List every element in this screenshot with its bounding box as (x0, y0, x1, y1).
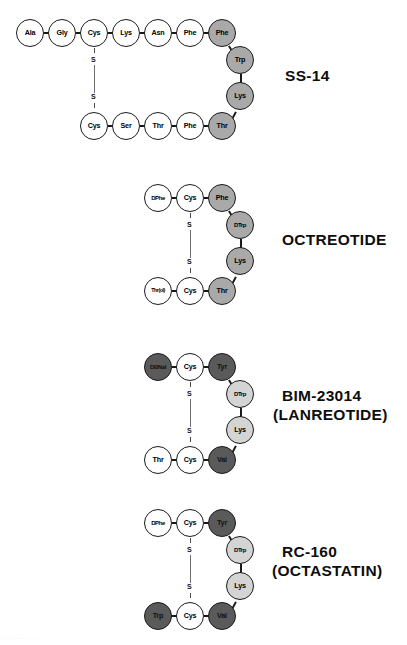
residue-trp: Trp (226, 46, 254, 74)
residue-label: Cys (88, 122, 101, 129)
disulfide-tick (94, 103, 95, 108)
residue-label: DTrp (234, 222, 246, 228)
residue-label: Lys (120, 29, 132, 36)
peptide-structures-figure: Ala Gly Cys Lys Asn Phe Phe Trp Lys Cys … (0, 0, 407, 645)
residue-dtrp: DTrp (226, 536, 254, 564)
residue-lys: Lys (226, 572, 254, 600)
residue-cys-top: Cys (176, 184, 204, 212)
residue-label: Lys (234, 426, 246, 433)
residue-label: DTrp (234, 391, 246, 397)
residue-label: Cys (88, 29, 101, 36)
panel-caption-octreotide: OCTREOTIDE (282, 230, 387, 249)
residue-lys: Lys (226, 247, 254, 275)
residue-label: Ala (25, 29, 36, 36)
residue-cys-bottom: Cys (80, 112, 108, 140)
disulfide-tick (190, 593, 191, 598)
disulfide-sulfur-lower: S (90, 93, 97, 100)
residue-ser: Ser (112, 112, 140, 140)
panel-octreotide: DPhe Cys Phe DTrp Lys Thr(ol) Cys Thr S … (0, 175, 407, 325)
residue-trp: Trp (144, 602, 172, 630)
caption-line1: SS-14 (285, 67, 330, 84)
disulfide-tick (190, 268, 191, 273)
residue-label: Phe (216, 29, 229, 36)
disulfide-sulfur-lower: S (186, 583, 193, 590)
residue-label: Thr(ol) (151, 288, 165, 293)
residue-label: Phe (184, 122, 197, 129)
residue-cys-bottom: Cys (176, 602, 204, 630)
residue-phe-bottom: Phe (176, 112, 204, 140)
residue-label: Asn (152, 29, 165, 36)
residue-label: Phe (216, 194, 229, 201)
panel-caption-rc160: RC-160 (OCTASTATIN) (282, 542, 382, 580)
caption-line1: BIM-23014 (282, 387, 361, 404)
panel-caption-bim23014: BIM-23014 (LANREOTIDE) (282, 386, 388, 424)
caption-line2: (LANREOTIDE) (273, 405, 388, 424)
residue-label: Lys (234, 582, 246, 589)
disulfide-tick (190, 538, 191, 543)
residue-label: Thr (217, 122, 228, 129)
residue-label: Tyr (217, 363, 227, 370)
residue-label: DPhe (151, 195, 165, 201)
disulfide-tick (94, 48, 95, 53)
residue-label: Val (217, 456, 227, 463)
residue-label: Lys (234, 92, 246, 99)
residue-tyr: Tyr (208, 509, 236, 537)
residue-asn: Asn (144, 19, 172, 47)
residue-label: Trp (235, 56, 246, 63)
disulfide-line (190, 399, 191, 427)
panel-bim23014: DBNal Cys Tyr DTrp Lys Thr Cys Val S S B… (0, 337, 407, 489)
residue-label: Ser (121, 122, 132, 129)
residue-lys: Lys (226, 416, 254, 444)
residue-tyr: Tyr (208, 353, 236, 381)
residue-label: DPhe (151, 520, 165, 526)
residue-dtrp: DTrp (226, 380, 254, 408)
residue-label: Lys (234, 257, 246, 264)
disulfide-sulfur-upper: S (186, 546, 193, 553)
disulfide-sulfur-lower: S (186, 427, 193, 434)
caption-line1: RC-160 (282, 543, 337, 560)
disulfide-tick (190, 382, 191, 387)
residue-label: DBNal (150, 364, 166, 370)
residue-dphe: DPhe (144, 509, 172, 537)
residue-thr-shaded: Thr (208, 112, 236, 140)
residue-cys-top: Cys (80, 19, 108, 47)
residue-label: Cys (184, 363, 197, 370)
residue-label: Thr (217, 287, 228, 294)
residue-dphe: DPhe (144, 184, 172, 212)
residue-dbnal: DBNal (144, 353, 172, 381)
residue-label: Tyr (217, 519, 227, 526)
residue-lys-ring: Lys (226, 82, 254, 110)
residue-cys-top: Cys (176, 509, 204, 537)
residue-label: Trp (153, 612, 164, 619)
disulfide-sulfur-upper: S (186, 221, 193, 228)
residue-label: Val (217, 612, 227, 619)
residue-label: Thr (153, 122, 164, 129)
disulfide-line (190, 555, 191, 583)
residue-ala: Ala (16, 19, 44, 47)
residue-label: Cys (184, 519, 197, 526)
disulfide-sulfur-upper: S (186, 390, 193, 397)
residue-label: Cys (184, 456, 197, 463)
residue-label: DTrp (234, 547, 246, 553)
residue-cys-top: Cys (176, 353, 204, 381)
disulfide-tick (190, 437, 191, 442)
residue-val: Val (208, 602, 236, 630)
caption-line1: OCTREOTIDE (282, 231, 387, 248)
panel-ss14: Ala Gly Cys Lys Asn Phe Phe Trp Lys Cys … (0, 0, 407, 175)
residue-phe-shaded: Phe (208, 184, 236, 212)
residue-label: Cys (184, 612, 197, 619)
disulfide-tick (190, 213, 191, 218)
residue-thr: Thr (144, 446, 172, 474)
disulfide-sulfur-upper: S (90, 56, 97, 63)
residue-thr: Thr (144, 112, 172, 140)
residue-lys-top: Lys (112, 19, 140, 47)
panel-rc160: DPhe Cys Tyr DTrp Lys Trp Cys Val S S RC… (0, 495, 407, 640)
residue-label: Thr (153, 456, 164, 463)
disulfide-sulfur-lower: S (186, 258, 193, 265)
residue-label: Gly (57, 29, 68, 36)
residue-thr-shaded: Thr (208, 277, 236, 305)
cropped-caption-text: · · ·· ·· ·· · ·· ·· · ·· · ·· · · (0, 636, 407, 645)
residue-cys-bottom: Cys (176, 446, 204, 474)
caption-line2: (OCTASTATIN) (272, 561, 382, 580)
residue-cys-bottom: Cys (176, 277, 204, 305)
